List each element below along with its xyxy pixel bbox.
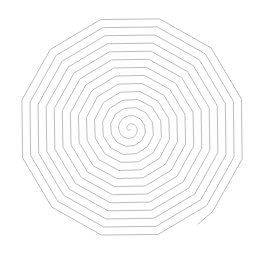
spiral-canvas [0,0,256,262]
dodecagon-spiral [22,19,242,235]
